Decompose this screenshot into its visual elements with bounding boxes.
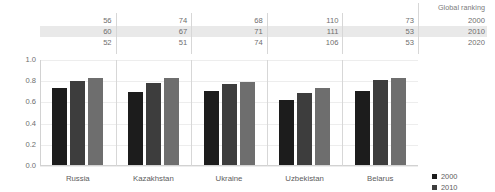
category-label: Belarus <box>367 174 393 183</box>
group-separator <box>191 60 192 166</box>
y-axis-tick-label: 0.4 <box>25 120 36 128</box>
bar <box>240 82 255 165</box>
ranking-column-rule <box>191 13 192 54</box>
global-ranking-table: Global ranking 5674681107320006067711115… <box>40 3 487 54</box>
bar <box>128 92 143 165</box>
ranking-row: 525174106532020 <box>40 37 487 48</box>
y-axis-tick-label: 0.6 <box>25 99 36 107</box>
ranking-column-rule <box>267 13 268 54</box>
bar <box>70 81 85 165</box>
legend-label: 2010 <box>441 183 457 192</box>
group-separator <box>116 60 117 166</box>
ranking-value-cell: 74 <box>191 37 267 48</box>
ranking-value-cell: 51 <box>116 37 192 48</box>
ranking-column-rule <box>116 13 117 54</box>
y-axis-tick-label: 1.0 <box>25 56 36 64</box>
category-label: Uzbekistan <box>285 174 324 183</box>
legend-label: 2000 <box>441 172 457 181</box>
y-axis-tick-label: 0.8 <box>25 77 36 85</box>
ranking-value-cell: 68 <box>191 15 267 26</box>
category-label: Ukraine <box>216 174 243 183</box>
ranking-value-cell: 110 <box>267 15 343 26</box>
group-separator <box>342 60 343 166</box>
legend-item[interactable]: 2000 <box>432 172 490 181</box>
ranking-year-column-rule <box>418 3 419 54</box>
legend: 200020102020 <box>432 172 490 192</box>
bar <box>297 93 312 165</box>
ranking-value-cell: 60 <box>40 26 116 37</box>
ranking-value-cell: 53 <box>342 26 418 37</box>
bar <box>88 78 103 165</box>
ranking-value-cell: 111 <box>267 26 343 37</box>
ranking-year-cell: 2000 <box>418 15 487 26</box>
bar <box>164 78 179 165</box>
ranking-value-cell: 71 <box>191 26 267 37</box>
ranking-value-cell: 67 <box>116 26 192 37</box>
category-label: Russia <box>66 174 90 183</box>
gridline <box>40 60 418 61</box>
gridline <box>40 166 418 167</box>
legend-swatch <box>432 185 437 190</box>
bar <box>391 78 406 165</box>
category-label: Kazakhstan <box>133 174 174 183</box>
bar <box>373 80 388 165</box>
global-ranking-header: Global ranking <box>438 3 485 12</box>
chart-page: Global ranking 5674681107320006067711115… <box>0 0 495 192</box>
y-axis-tick-label: 0.2 <box>25 141 36 149</box>
bar-chart: 0.00.20.40.60.81.0 RussiaKazakhstanUkrai… <box>0 54 495 192</box>
ranking-value-cell: 52 <box>40 37 116 48</box>
legend-item[interactable]: 2010 <box>432 183 490 192</box>
ranking-value-cell: 53 <box>342 37 418 48</box>
ranking-row: 606771111532010 <box>40 26 487 37</box>
bar <box>204 91 219 165</box>
x-axis-line <box>40 165 418 166</box>
ranking-year-cell: 2020 <box>418 37 487 48</box>
bar <box>146 83 161 165</box>
legend-swatch <box>432 174 437 179</box>
ranking-value-cell: 74 <box>116 15 192 26</box>
group-separator <box>267 60 268 166</box>
ranking-value-cell: 106 <box>267 37 343 48</box>
bar <box>279 100 294 165</box>
ranking-column-rule <box>342 13 343 54</box>
plot-area: 0.00.20.40.60.81.0 RussiaKazakhstanUkrai… <box>40 60 418 166</box>
ranking-value-cell: 73 <box>342 15 418 26</box>
bar <box>355 91 370 165</box>
ranking-value-cell: 56 <box>40 15 116 26</box>
ranking-row: 567468110732000 <box>40 15 487 26</box>
ranking-year-cell: 2010 <box>418 26 487 37</box>
bar <box>315 88 330 165</box>
bar <box>222 84 237 165</box>
y-axis-line <box>40 60 41 166</box>
bar <box>52 88 67 165</box>
y-axis-tick-label: 0.0 <box>25 162 36 170</box>
